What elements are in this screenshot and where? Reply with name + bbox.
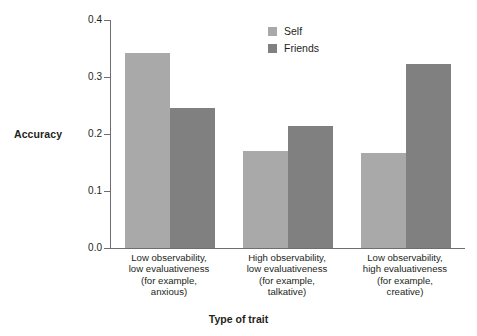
x-category-label-1: Low observability,low evaluativeness(for… bbox=[102, 252, 236, 298]
legend-swatch-self-icon bbox=[268, 27, 277, 36]
x-category-label-line: Low observability, bbox=[338, 252, 472, 263]
x-axis-line bbox=[110, 248, 465, 249]
y-tick-1: 0.1 bbox=[76, 191, 110, 192]
y-tick-3: 0.3 bbox=[76, 77, 110, 78]
x-category-label-line: high evaluativeness bbox=[338, 263, 472, 274]
bar-group-3 bbox=[347, 20, 465, 248]
bar-friends-group-1 bbox=[170, 108, 215, 248]
x-axis-category-labels: Low observability,low evaluativeness(for… bbox=[110, 252, 466, 310]
y-tick-mark bbox=[104, 20, 110, 21]
x-category-label-line: (for example, bbox=[338, 275, 472, 286]
legend-swatch-friends-icon bbox=[268, 44, 277, 53]
y-tick-mark bbox=[104, 191, 110, 192]
x-category-label-line: (for example, bbox=[220, 275, 354, 286]
y-tick-mark bbox=[104, 134, 110, 135]
x-category-label-line: low evaluativeness bbox=[102, 263, 236, 274]
x-axis-title: Type of trait bbox=[0, 313, 477, 325]
bar-self-group-1 bbox=[125, 53, 170, 249]
legend-item-friends: Friends bbox=[268, 41, 319, 56]
y-tick-label: 0.1 bbox=[76, 186, 102, 196]
y-tick-mark bbox=[104, 77, 110, 78]
y-axis-title: Accuracy bbox=[14, 128, 84, 140]
y-tick-mark bbox=[104, 248, 110, 249]
x-category-label-line: creative) bbox=[338, 286, 472, 297]
legend-item-self: Self bbox=[268, 24, 319, 39]
y-tick-2: 0.2 bbox=[76, 134, 110, 135]
x-category-label-line: anxious) bbox=[102, 286, 236, 297]
x-category-label-line: High observability, bbox=[220, 252, 354, 263]
y-tick-label: 0.3 bbox=[76, 72, 102, 82]
legend-label-self: Self bbox=[284, 26, 302, 37]
y-tick-4: 0.4 bbox=[76, 20, 110, 21]
bar-friends-group-2 bbox=[288, 126, 333, 248]
y-tick-label: 0.4 bbox=[76, 15, 102, 25]
x-category-label-line: low evaluativeness bbox=[220, 263, 354, 274]
y-tick-0: 0.0 bbox=[76, 248, 110, 249]
bar-self-group-3 bbox=[361, 153, 406, 248]
x-category-label-line: Low observability, bbox=[102, 252, 236, 263]
legend-label-friends: Friends bbox=[284, 43, 319, 54]
x-category-label-2: High observability,low evaluativeness(fo… bbox=[220, 252, 354, 298]
bar-chart-figure: Accuracy 0.00.10.20.30.4 Self Friends Lo… bbox=[0, 0, 477, 336]
bar-friends-group-3 bbox=[406, 64, 451, 248]
x-category-label-3: Low observability,high evaluativeness(fo… bbox=[338, 252, 472, 298]
chart-legend: Self Friends bbox=[268, 24, 319, 58]
bar-self-group-2 bbox=[243, 151, 288, 248]
y-tick-label: 0.0 bbox=[76, 243, 102, 253]
x-category-label-line: talkative) bbox=[220, 286, 354, 297]
y-tick-label: 0.2 bbox=[76, 129, 102, 139]
bar-group-1 bbox=[111, 20, 229, 248]
x-category-label-line: (for example, bbox=[102, 275, 236, 286]
